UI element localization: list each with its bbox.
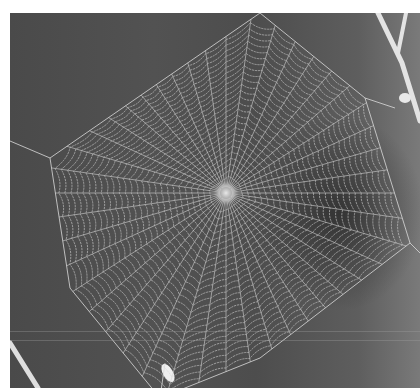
- web-radial-thread: [232, 194, 402, 219]
- web-radial-thread: [167, 199, 225, 388]
- web-radial-thread: [199, 199, 225, 383]
- web-radial-thread: [227, 199, 250, 362]
- scan-artifact: [10, 331, 420, 332]
- web-anchor-thread: [10, 141, 50, 158]
- web-radial-thread: [227, 19, 251, 187]
- web-anchor-thread: [410, 243, 420, 253]
- web-hub: [213, 180, 239, 206]
- web-anchor-thread: [365, 98, 395, 108]
- web-radial-thread: [123, 198, 223, 353]
- web-radial-thread: [141, 95, 222, 188]
- twig-bottom-left: [10, 343, 38, 388]
- scan-artifact: [10, 340, 420, 341]
- web-radial-thread: [73, 196, 221, 291]
- web-radial-thread: [63, 195, 220, 241]
- spider-web-photo: [10, 13, 420, 388]
- web-radial-thread: [231, 103, 366, 190]
